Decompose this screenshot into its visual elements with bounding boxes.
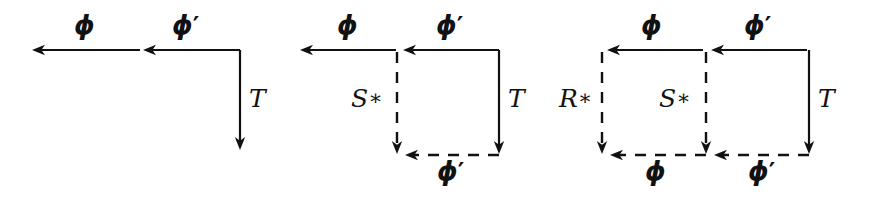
diagram-2-label-phi-top-left: ϕ bbox=[337, 12, 358, 38]
arrow-phi-prime-top bbox=[403, 45, 499, 55]
arrow-R-star-vertical bbox=[597, 52, 607, 154]
star-mark: ∗ bbox=[676, 86, 690, 110]
star-mark: ∗ bbox=[578, 86, 592, 110]
prime-mark: ′ bbox=[769, 157, 776, 186]
single-arrow-corner bbox=[32, 45, 245, 150]
diagram-2-label-S-star-middle: S∗ bbox=[351, 86, 382, 111]
figure-canvas: ϕϕ′Tϕϕ′S∗Tϕ′ϕϕ′R∗S∗Tϕϕ′ bbox=[0, 0, 873, 200]
arrow-phi-prime-top bbox=[143, 45, 240, 55]
diagram-3-label-phi-top-left: ϕ bbox=[641, 12, 662, 38]
diagram-3-label-phi-prime-top: ϕ′ bbox=[744, 12, 771, 38]
prime-mark: ′ bbox=[458, 157, 465, 186]
one-square-diagram bbox=[300, 45, 504, 160]
arrow-phi-top-left bbox=[300, 45, 396, 55]
diagram-3-label-S-star-middle: S∗ bbox=[659, 86, 690, 111]
diagram-2-label-T-right: T bbox=[508, 86, 525, 111]
prime-mark: ′ bbox=[765, 11, 772, 40]
arrow-S-star-vertical bbox=[392, 52, 402, 154]
diagram-2-label-phi-prime-bottom: ϕ′ bbox=[437, 158, 464, 184]
prime-mark: ′ bbox=[193, 11, 200, 40]
prime-mark: ′ bbox=[457, 11, 464, 40]
arrow-phi-top-left bbox=[32, 45, 140, 55]
arrow-T-vertical bbox=[494, 50, 504, 154]
diagram-1-label-phi-top-left: ϕ bbox=[74, 12, 95, 38]
diagram-3-label-phi-bottom-left: ϕ bbox=[645, 158, 666, 184]
two-square-diagram bbox=[597, 45, 814, 160]
arrow-phi-top-left bbox=[607, 45, 703, 55]
star-mark: ∗ bbox=[368, 86, 382, 110]
arrow-phi-prime-top bbox=[711, 45, 807, 55]
arrow-T-right bbox=[235, 50, 245, 150]
diagram-3-label-T-right: T bbox=[818, 86, 835, 111]
arrow-S-star-vertical bbox=[701, 52, 711, 154]
diagram-3-label-phi-prime-bottom: ϕ′ bbox=[748, 158, 775, 184]
diagram-1-label-phi-prime-top: ϕ′ bbox=[172, 12, 199, 38]
arrow-T-vertical bbox=[804, 50, 814, 154]
diagram-1-label-T-right: T bbox=[249, 86, 266, 111]
diagram-3-label-R-star-left: R∗ bbox=[559, 86, 592, 111]
diagram-2-label-phi-prime-top: ϕ′ bbox=[436, 12, 463, 38]
